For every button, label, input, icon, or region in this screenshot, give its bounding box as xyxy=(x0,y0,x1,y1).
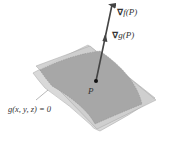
grad-g-arrowhead xyxy=(102,33,107,42)
grad-f-label: ∇f(P) xyxy=(117,7,137,17)
surface-leader-line xyxy=(36,90,48,100)
grad-g-label: ∇g(P) xyxy=(112,30,134,40)
point-p xyxy=(94,79,98,83)
point-p-label: P xyxy=(87,86,94,96)
surface-equation-label: g(x, y, z) = 0 xyxy=(8,104,52,114)
gradient-diagram: ∇f(P) ∇g(P) P g(x, y, z) = 0 xyxy=(0,0,170,142)
